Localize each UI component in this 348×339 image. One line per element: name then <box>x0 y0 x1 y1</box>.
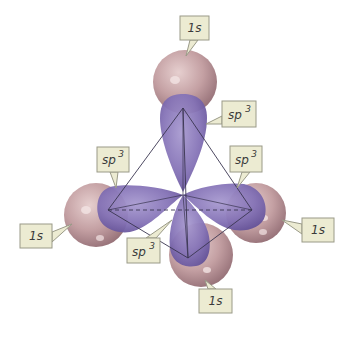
label-text: 1s <box>188 21 202 35</box>
label-text: 1s <box>29 229 43 243</box>
sp3-lobe-left <box>97 185 183 232</box>
label-superscript: 3 <box>149 241 155 251</box>
label-left-1s: 1s <box>20 224 72 248</box>
label-text: sp <box>228 108 242 122</box>
label-superscript: 3 <box>118 149 124 159</box>
label-top-1s: 1s <box>180 16 209 56</box>
label-left-sp3: sp 3 <box>97 147 129 188</box>
label-right-sp3: sp 3 <box>230 146 262 188</box>
label-text: sp <box>102 153 116 167</box>
sp3-tetrahedral-diagram: 1s sp 3 sp 3 sp 3 1s 1s sp 3 1s <box>0 0 348 339</box>
label-text: sp <box>132 245 146 259</box>
label-superscript: 3 <box>245 104 251 114</box>
label-text: sp <box>235 153 249 167</box>
label-superscript: 3 <box>251 149 257 159</box>
label-text: 1s <box>311 223 325 237</box>
label-text: 1s <box>209 294 223 308</box>
label-top-sp3: sp 3 <box>206 101 256 127</box>
label-right-1s: 1s <box>282 218 334 242</box>
